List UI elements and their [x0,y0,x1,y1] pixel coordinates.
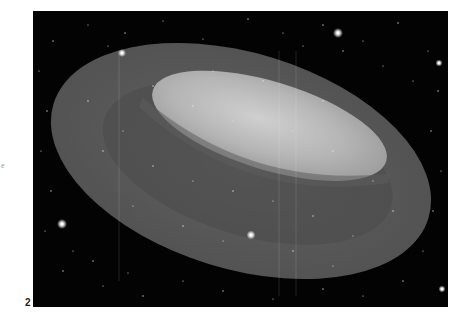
margin-text-fragment: e [1,162,5,170]
figure-number: 2 [25,298,31,308]
torus-body [33,11,448,307]
torus-illustration [33,11,448,307]
torus-starfield-image [33,11,448,307]
